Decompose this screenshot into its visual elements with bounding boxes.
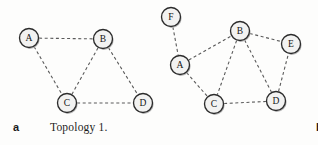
caption-topology-1: Topology 1. bbox=[50, 121, 108, 133]
panel-letter-a: a bbox=[13, 122, 19, 133]
node-E[interactable]: E bbox=[282, 35, 302, 55]
topology-2-graph: FBEACD bbox=[159, 0, 318, 118]
topology-1-graph: ABCD bbox=[0, 0, 159, 118]
edge-D-E bbox=[279, 54, 289, 91]
edge-C-D bbox=[224, 101, 266, 103]
panel-topology-2: FBEACD b Topology 2. bbox=[159, 0, 318, 145]
edge-B-D bbox=[245, 40, 272, 92]
edge-A-C bbox=[187, 73, 208, 97]
node-label-C: C bbox=[211, 99, 217, 109]
node-label-D: D bbox=[273, 96, 280, 106]
node-label-E: E bbox=[288, 39, 294, 49]
edge-A-B bbox=[189, 36, 231, 60]
edge-B-D bbox=[108, 48, 137, 95]
node-F[interactable]: F bbox=[162, 8, 182, 28]
node-A[interactable]: A bbox=[171, 56, 191, 76]
node-label-F: F bbox=[168, 12, 173, 22]
node-C[interactable]: C bbox=[58, 94, 78, 114]
edge-B-E bbox=[250, 33, 281, 41]
node-C[interactable]: C bbox=[205, 95, 225, 115]
node-D[interactable]: D bbox=[134, 94, 154, 114]
panel-topology-1: ABCD a Topology 1. bbox=[0, 0, 159, 145]
edge-A-B bbox=[39, 38, 93, 39]
edge-A-C bbox=[34, 47, 62, 95]
node-B[interactable]: B bbox=[94, 30, 114, 50]
node-label-A: A bbox=[26, 33, 33, 43]
node-D[interactable]: D bbox=[267, 92, 287, 112]
panel-letter-b: b bbox=[316, 122, 318, 133]
figure-network-topologies: ABCD a Topology 1. FBEACD b Topology 2. bbox=[0, 0, 318, 145]
node-B[interactable]: B bbox=[231, 22, 251, 42]
node-A[interactable]: A bbox=[20, 29, 40, 49]
node-label-B: B bbox=[100, 34, 106, 44]
node-label-D: D bbox=[140, 98, 147, 108]
node-label-A: A bbox=[177, 60, 184, 70]
node-label-B: B bbox=[237, 26, 243, 36]
node-label-C: C bbox=[64, 98, 70, 108]
edge-B-C bbox=[72, 48, 98, 94]
edge-B-C bbox=[217, 41, 236, 95]
edge-F-A bbox=[173, 27, 178, 55]
